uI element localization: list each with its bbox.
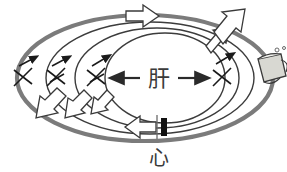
block-arrow-bottom-left-1 (36, 88, 66, 118)
cut-mark-3 (87, 57, 107, 86)
block-arrow-bottom-left-3 (91, 90, 114, 114)
block-arrow-bottom-center (125, 116, 156, 138)
bottom-label-heart: 心 (149, 146, 169, 170)
center-label-liver: 肝 (148, 66, 170, 91)
heart-valve-marker (157, 115, 167, 139)
cut-mark-4 (213, 55, 231, 86)
block-arrow-upper-right-large (214, 9, 245, 44)
block-arrow-top (126, 5, 159, 27)
diagram-canvas: 肝 心 (0, 0, 287, 172)
